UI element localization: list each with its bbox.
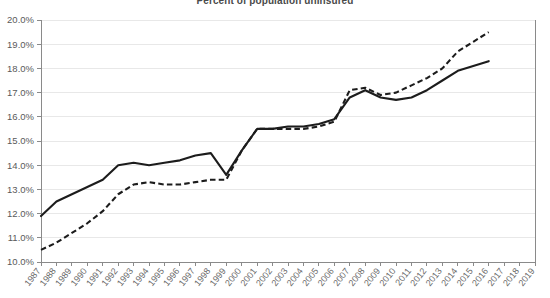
x-axis-tick-label: 1992 [100,266,120,288]
x-axis-tick-label: 2017 [485,266,505,288]
y-axis-tick-label: 19.0% [7,39,34,50]
x-axis-tick-label: 1987 [22,266,42,288]
chart-container: Percent of population uninsured 10.0%11.… [0,0,550,298]
y-axis-tick-label: 18.0% [7,63,34,74]
x-axis-tick-label: 2018 [501,266,521,288]
x-axis-tick-label: 2010 [377,266,397,288]
y-axis-tick-label: 11.0% [8,232,35,243]
y-axis-tick-label: 16.0% [7,111,34,122]
line-chart-plot: 10.0%11.0%12.0%13.0%14.0%15.0%16.0%17.0%… [0,0,550,298]
x-axis-tick-label: 1989 [53,266,73,288]
y-axis-tick-label: 14.0% [7,160,34,171]
x-axis-tick-label: 2004 [285,266,305,288]
x-axis-tick-label: 2002 [254,266,274,288]
x-axis-tick-label: 2014 [439,266,459,288]
series-line-solid-series [41,61,489,216]
y-axis-tick-label: 20.0% [7,14,34,25]
x-axis-tick-label: 1994 [130,266,150,288]
y-axis-tick-label: 10.0% [7,256,34,267]
x-axis-tick-label: 1998 [192,266,212,288]
x-axis-tick-label: 2006 [316,266,336,288]
x-axis-tick-label: 2009 [362,266,382,288]
x-axis-tick-label: 2016 [470,266,490,288]
x-axis-tick-label: 2007 [331,266,351,288]
y-axis-tick-label: 15.0% [7,135,34,146]
x-axis-tick-label: 2019 [516,266,536,288]
x-axis-tick-label: 1991 [84,266,104,288]
x-axis-tick-label: 2008 [347,266,367,288]
y-axis-tick-label: 17.0% [7,87,34,98]
x-axis-tick-label: 1990 [69,266,89,288]
y-axis-tick-label: 12.0% [7,208,34,219]
x-axis-tick-label: 2001 [238,266,258,288]
x-axis-tick-label: 2000 [223,266,243,288]
y-axis-tick-label: 13.0% [7,184,34,195]
x-axis-tick-label: 1996 [161,266,181,288]
x-axis-tick-label: 2015 [455,266,475,288]
x-axis-tick-label: 2003 [269,266,289,288]
x-axis-tick-label: 1988 [38,266,58,288]
x-axis-tick-label: 2013 [424,266,444,288]
x-axis-tick-label: 1997 [177,266,197,288]
x-axis-tick-label: 2005 [300,266,320,288]
x-axis-tick-label: 2012 [408,266,428,288]
x-axis-tick-label: 1999 [208,266,228,288]
x-axis-tick-label: 1993 [115,266,135,288]
x-axis-tick-label: 1995 [146,266,166,288]
